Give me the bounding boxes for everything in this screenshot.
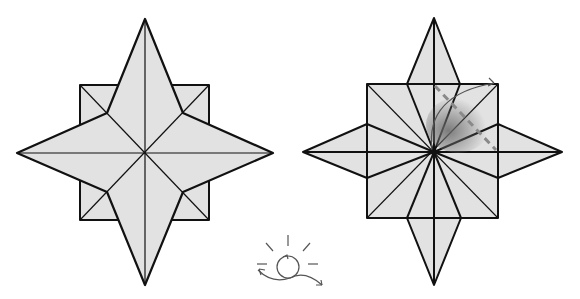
origami-diagram <box>0 0 580 299</box>
star-step-a <box>17 19 273 285</box>
star-step-b <box>303 18 562 285</box>
turn-over-icon <box>257 235 322 285</box>
fold-shading <box>426 97 490 153</box>
